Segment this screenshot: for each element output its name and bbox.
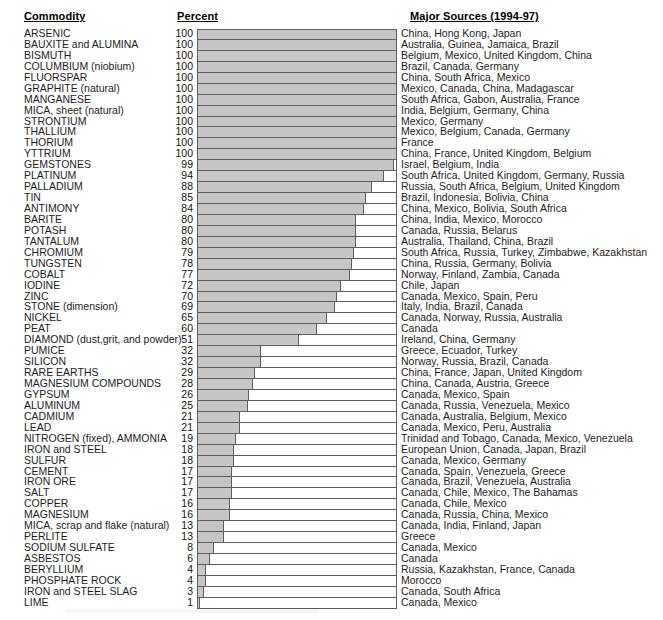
chart-row: IRON and STEEL18European Union, Canada, … xyxy=(0,445,663,456)
bar xyxy=(198,204,364,214)
bar xyxy=(198,40,396,50)
percent-value: 77 xyxy=(120,269,193,280)
bar-track xyxy=(197,292,397,303)
bar-track xyxy=(197,51,397,62)
import-reliance-bar-chart: ARSENIC100China, Hong Kong, JapanBAUXITE… xyxy=(0,29,663,609)
chart-row: TUNGSTEN78China, Russia, Germany, Bolivi… xyxy=(0,259,663,270)
bar-track xyxy=(197,379,397,390)
bar xyxy=(198,576,206,586)
bar xyxy=(198,587,204,597)
percent-value: 100 xyxy=(120,94,193,105)
major-sources-label: Canada, Mexico xyxy=(401,597,477,608)
chart-row: IRON and STEEL SLAG3Canada, South Africa xyxy=(0,587,663,598)
bar-track xyxy=(197,368,397,379)
bar-track xyxy=(197,324,397,335)
bar xyxy=(198,368,255,378)
bar-track xyxy=(197,401,397,412)
bar xyxy=(198,477,232,487)
percent-value: 100 xyxy=(120,105,193,116)
bar-track xyxy=(197,281,397,292)
bar xyxy=(198,215,356,225)
bar-track xyxy=(197,467,397,478)
bar-track xyxy=(197,95,397,106)
commodity-label: LIME xyxy=(24,597,49,608)
bar xyxy=(198,62,396,72)
major-sources-label: Chile, Japan xyxy=(401,280,459,291)
chart-row: COPPER16Canada, Chile, Mexico xyxy=(0,499,663,510)
bar xyxy=(198,292,337,302)
bar-track xyxy=(197,73,397,84)
bar xyxy=(198,357,261,367)
commodity-label: COBALT xyxy=(24,269,65,280)
bar-track xyxy=(197,106,397,117)
chart-row: BARITE80China, India, Mexico, Morocco xyxy=(0,215,663,226)
bar xyxy=(198,401,248,411)
chart-row: LIME1Canada, Mexico xyxy=(0,598,663,609)
percent-value: 4 xyxy=(120,564,193,575)
chart-row: COBALT77Norway, Finland, Zambia, Canada xyxy=(0,270,663,281)
chart-row: IODINE72Chile, Japan xyxy=(0,281,663,292)
percent-value: 13 xyxy=(120,531,193,542)
bar xyxy=(198,226,356,236)
bar xyxy=(198,182,372,192)
chart-row: YTTRIUM100China, France, United Kingdom,… xyxy=(0,149,663,160)
bar xyxy=(198,313,327,323)
commodity-label: IRON and STEEL xyxy=(24,444,107,455)
percent-value: 18 xyxy=(120,444,193,455)
bar-track xyxy=(197,598,397,609)
chart-row: SALT17Canada, Chile, Mexico, The Bahamas xyxy=(0,488,663,499)
chart-row: MICA, sheet (natural)100India, Belgium, … xyxy=(0,106,663,117)
bar-track xyxy=(197,149,397,160)
bar xyxy=(198,51,396,61)
chart-row: NICKEL65Canada, Norway, Russia, Australi… xyxy=(0,313,663,324)
bar xyxy=(198,412,240,422)
bar xyxy=(198,117,396,127)
bar xyxy=(198,423,240,433)
bar xyxy=(198,302,335,312)
bar-track xyxy=(197,29,397,40)
bar-track xyxy=(197,357,397,368)
bar xyxy=(198,270,350,280)
bar-track xyxy=(197,259,397,270)
bar-track xyxy=(197,434,397,445)
bar xyxy=(198,346,261,356)
commodity-label: MICA, sheet (natural) xyxy=(24,105,124,116)
bar xyxy=(198,488,232,498)
bar xyxy=(198,127,396,137)
bar xyxy=(198,237,356,247)
scan-artifact xyxy=(66,609,318,613)
bar-track xyxy=(197,171,397,182)
bar-track xyxy=(197,40,397,51)
bar xyxy=(198,510,230,520)
bar xyxy=(198,193,366,203)
chart-row: STONE (dimension)69Italy, India, Brazil,… xyxy=(0,302,663,313)
bar xyxy=(198,248,354,258)
bar-track xyxy=(197,237,397,248)
bar xyxy=(198,543,214,553)
percent-value: 18 xyxy=(120,455,193,466)
bar-track xyxy=(197,488,397,499)
bar xyxy=(198,565,206,575)
percent-value: 6 xyxy=(120,553,193,564)
bar-track xyxy=(197,84,397,95)
bar xyxy=(198,379,253,389)
chart-row: COLUMBIUM (niobium)100Brazil, Canada, Ge… xyxy=(0,62,663,73)
major-sources-label: India, Belgium, Germany, China xyxy=(401,105,549,116)
bar-track xyxy=(197,248,397,259)
bar xyxy=(198,84,396,94)
bar-track xyxy=(197,160,397,171)
bar xyxy=(198,434,236,444)
bar xyxy=(198,467,232,477)
bar-track xyxy=(197,412,397,423)
bar-track xyxy=(197,335,397,346)
chart-row: THALLIUM100Mexico, Belgium, Canada, Germ… xyxy=(0,127,663,138)
bar-track xyxy=(197,346,397,357)
commodity-label: SULFUR xyxy=(24,455,66,466)
bar xyxy=(198,138,396,148)
major-sources-label: Canada, Mexico, Germany xyxy=(401,455,526,466)
major-sources-label: Norway, Finland, Zambia, Canada xyxy=(401,269,560,280)
bar-track xyxy=(197,532,397,543)
percent-value: 1 xyxy=(120,597,193,608)
bar-track xyxy=(197,117,397,128)
bar xyxy=(198,73,396,83)
